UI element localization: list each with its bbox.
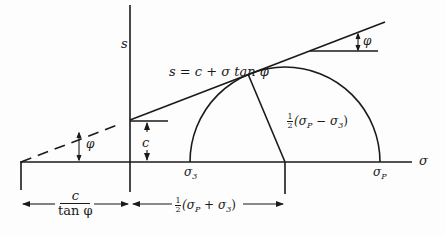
sigma3-label: σ3 <box>184 166 197 181</box>
envelope-equation: s = c + σ tan φ <box>169 65 269 78</box>
phi-label-top: φ <box>363 35 371 47</box>
c-intercept-label: c <box>142 136 149 149</box>
sigma-axis-label: σ <box>419 154 428 167</box>
radius-line <box>248 74 285 162</box>
s-axis-label: s <box>121 37 128 50</box>
radius-label: 12(σP − σ3) <box>287 113 348 130</box>
phi-label-bottom: φ <box>86 138 94 150</box>
mohr-coulomb-diagram: s σ s = c + σ tan φ φ φ c σ3 σP 12(σP − … <box>0 0 445 235</box>
sigmaP-label: σP <box>373 166 387 181</box>
right-dimension-label: 12(σP + σ3) <box>175 197 236 214</box>
left-dimension-label: c tan φ <box>58 189 93 218</box>
envelope-extension-dashed <box>21 124 120 162</box>
mohr-circle <box>190 67 380 162</box>
